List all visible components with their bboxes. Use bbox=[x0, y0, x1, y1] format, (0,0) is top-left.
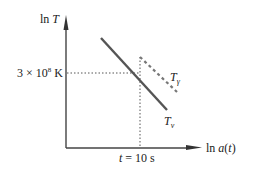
temperature-scale-factor-diagram: ln T ln a(t) 3 × 108 K t = 10 s Tγ Tν bbox=[0, 0, 253, 171]
x-axis-label: ln a(t) bbox=[206, 141, 236, 155]
temperature-reference-label: 3 × 108 K bbox=[17, 66, 63, 80]
reference-guides bbox=[67, 57, 140, 148]
photon-temperature-label: Tγ bbox=[170, 70, 181, 86]
x-axis-arrowhead-icon bbox=[186, 145, 202, 150]
time-reference-label: t = 10 s bbox=[119, 151, 155, 165]
y-axis-arrowhead-icon bbox=[64, 15, 69, 30]
y-axis-label: ln T bbox=[40, 12, 60, 26]
x-axis bbox=[66, 145, 202, 150]
y-axis bbox=[64, 15, 69, 148]
neutrino-temperature-label: Tν bbox=[164, 114, 175, 130]
